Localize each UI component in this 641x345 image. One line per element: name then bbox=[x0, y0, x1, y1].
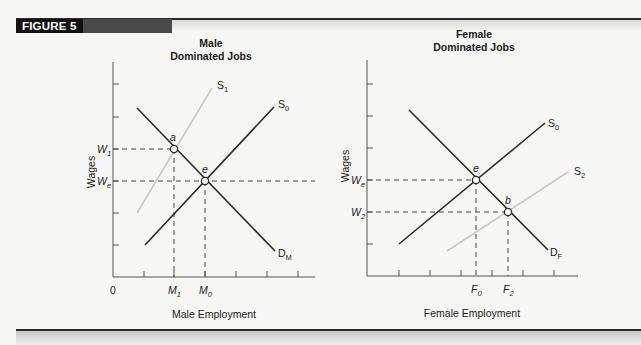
left-chart-title-line2: Dominated Jobs bbox=[170, 50, 252, 62]
right-y-ticks bbox=[367, 84, 373, 244]
right-s0-label: S0 bbox=[548, 117, 559, 132]
right-x-axis-label: Female Employment bbox=[424, 307, 520, 319]
left-supply-s0-curve bbox=[145, 107, 274, 245]
left-x-ticks bbox=[144, 271, 298, 277]
left-point-a-marker bbox=[170, 145, 177, 152]
footer-shade bbox=[16, 331, 641, 345]
left-y-tick-w1: W1 bbox=[97, 143, 111, 158]
right-df-label: DF bbox=[550, 246, 563, 261]
left-x-tick-m1: M1 bbox=[168, 284, 181, 299]
left-y-ticks bbox=[113, 84, 119, 245]
left-chart-title-line1: Male bbox=[199, 37, 223, 49]
right-guide-lines bbox=[367, 180, 508, 276]
right-y-axis-label: Wages bbox=[339, 150, 351, 182]
male-dominated-jobs-chart: Male Dominated Jobs bbox=[85, 37, 315, 320]
right-point-b-label: b bbox=[505, 194, 511, 206]
left-point-e-label: e bbox=[202, 163, 208, 175]
right-y-tick-we: We bbox=[351, 174, 365, 189]
right-y-tick-w2: W2 bbox=[351, 206, 366, 221]
left-s0-label: S0 bbox=[278, 98, 289, 113]
left-x-axis-label: Male Employment bbox=[172, 308, 256, 320]
left-y-tick-we: We bbox=[97, 175, 111, 190]
right-chart-title-line2: Dominated Jobs bbox=[433, 41, 515, 53]
left-dm-label: DM bbox=[278, 247, 292, 262]
left-x-tick-m0: M0 bbox=[199, 284, 213, 299]
left-s1-label: S1 bbox=[217, 79, 228, 94]
figure-charts: Male Dominated Jobs bbox=[0, 0, 641, 345]
left-point-e-marker bbox=[201, 177, 208, 184]
right-x-tick-f2: F2 bbox=[503, 283, 514, 298]
right-x-tick-f0: F0 bbox=[471, 283, 482, 298]
right-point-e-marker bbox=[472, 176, 479, 183]
right-point-e-label: e bbox=[473, 162, 479, 174]
left-point-a-label: a bbox=[170, 131, 176, 143]
left-origin-label: 0 bbox=[110, 284, 116, 296]
right-s2-label: S2 bbox=[574, 165, 585, 180]
left-y-axis-label: Wages bbox=[85, 156, 97, 188]
right-point-b-marker bbox=[504, 208, 511, 215]
right-chart-title-line1: Female bbox=[456, 28, 492, 40]
female-dominated-jobs-chart: Female Dominated Jobs bbox=[339, 28, 585, 319]
